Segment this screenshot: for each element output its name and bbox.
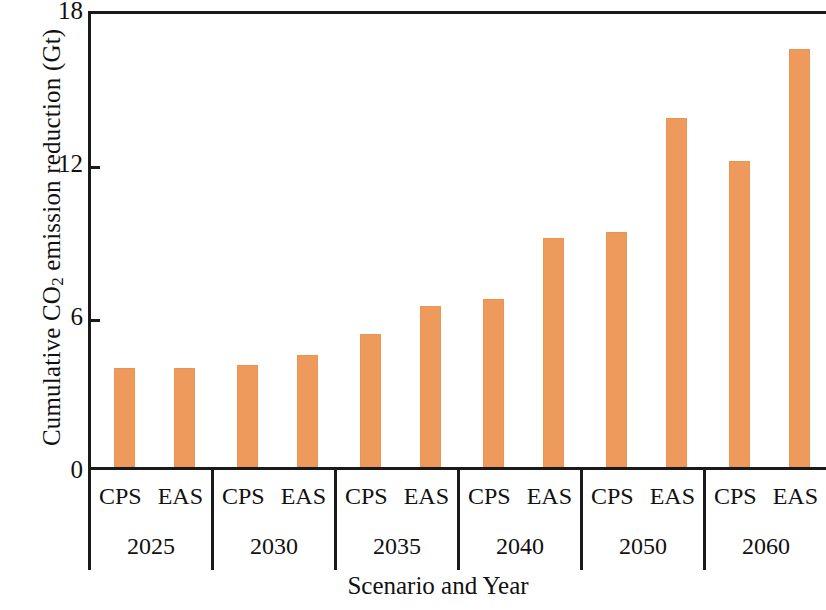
plot-area — [88, 11, 826, 470]
bar-2025-CPS — [114, 368, 135, 467]
year-label-2050: 2050 — [619, 534, 667, 558]
scenario-label-2060-CPS: CPS — [714, 484, 757, 508]
year-label-2040: 2040 — [496, 534, 544, 558]
y-tick-label-12: 12 — [39, 151, 83, 176]
scenario-label-2050-CPS: CPS — [591, 484, 634, 508]
bar-2050-EAS — [666, 118, 687, 467]
scenario-label-2035-CPS: CPS — [345, 484, 388, 508]
scenario-label-2060-EAS: EAS — [773, 484, 818, 508]
scenario-cell-2060: CPSEAS — [703, 470, 826, 522]
year-label-2060: 2060 — [742, 534, 790, 558]
y-tick-mark-6 — [91, 319, 100, 322]
year-label-2025: 2025 — [127, 534, 175, 558]
bar-2035-EAS — [420, 306, 441, 467]
bar-2025-EAS — [174, 368, 195, 467]
year-cell-2035: 2035 — [334, 522, 457, 570]
y-axis-tick-labels: 061218 — [33, 0, 83, 610]
bar-2060-CPS — [729, 161, 750, 467]
bar-2050-CPS — [606, 232, 627, 467]
scenario-label-2035-EAS: EAS — [404, 484, 449, 508]
y-tick-label-18: 18 — [39, 0, 83, 23]
bar-2030-EAS — [297, 355, 318, 467]
scenario-cell-2030: CPSEAS — [211, 470, 334, 522]
year-label-row: 202520302035204020502060 — [88, 522, 826, 570]
scenario-label-2040-EAS: EAS — [527, 484, 572, 508]
scenario-cell-2040: CPSEAS — [457, 470, 580, 522]
scenario-label-2040-CPS: CPS — [468, 484, 511, 508]
category-axis: CPSEASCPSEASCPSEASCPSEASCPSEASCPSEAS 202… — [88, 470, 826, 570]
scenario-cell-2050: CPSEAS — [580, 470, 703, 522]
year-cell-2040: 2040 — [457, 522, 580, 570]
year-cell-2050: 2050 — [580, 522, 703, 570]
year-cell-2060: 2060 — [703, 522, 826, 570]
scenario-label-2050-EAS: EAS — [650, 484, 695, 508]
scenario-cell-2035: CPSEAS — [334, 470, 457, 522]
year-cell-2030: 2030 — [211, 522, 334, 570]
bar-2040-CPS — [483, 299, 504, 467]
y-tick-label-0: 0 — [39, 457, 83, 482]
bar-2030-CPS — [237, 365, 258, 467]
bar-2040-EAS — [543, 238, 564, 468]
y-tick-label-6: 6 — [39, 304, 83, 329]
scenario-label-2030-EAS: EAS — [281, 484, 326, 508]
scenario-cell-2025: CPSEAS — [88, 470, 211, 522]
scenario-label-row: CPSEASCPSEASCPSEASCPSEASCPSEASCPSEAS — [88, 470, 826, 522]
bar-2035-CPS — [360, 334, 381, 467]
scenario-label-2025-CPS: CPS — [99, 484, 142, 508]
year-label-2035: 2035 — [373, 534, 421, 558]
scenario-label-2030-CPS: CPS — [222, 484, 265, 508]
x-axis-title: Scenario and Year — [88, 572, 788, 600]
year-label-2030: 2030 — [250, 534, 298, 558]
scenario-label-2025-EAS: EAS — [158, 484, 203, 508]
bar-2060-EAS — [789, 49, 810, 467]
y-tick-mark-12 — [91, 166, 100, 169]
bar-chart: Cumulative CO2 emission reduction (Gt) 0… — [0, 0, 826, 610]
year-cell-2025: 2025 — [88, 522, 211, 570]
